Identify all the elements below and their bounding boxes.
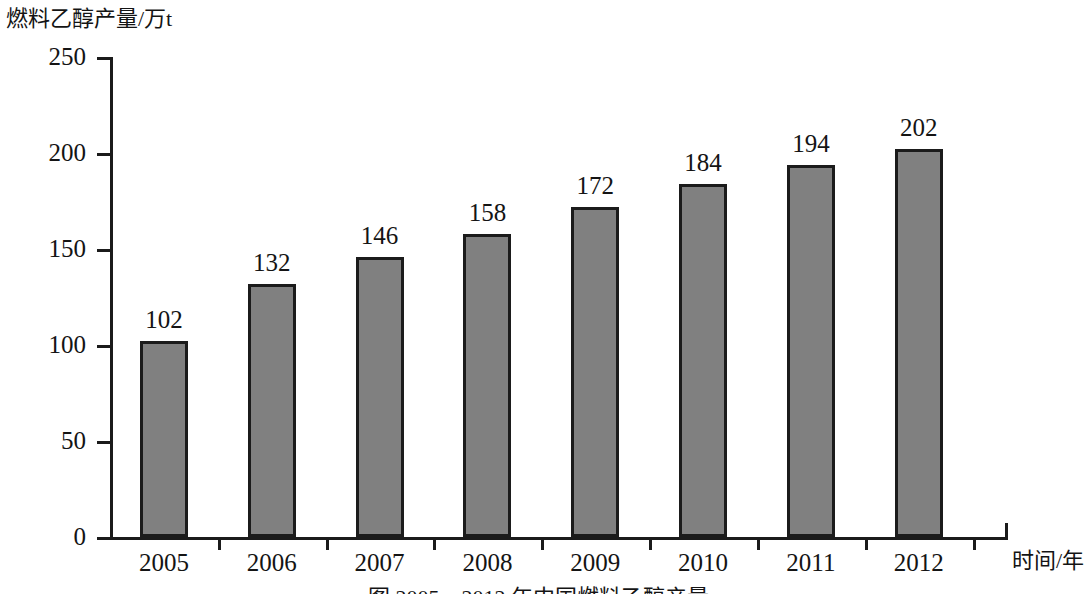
x-tick-label: 2009: [570, 549, 620, 577]
bar-value-label: 132: [253, 250, 291, 275]
y-tick-label: 200: [16, 140, 86, 165]
x-tick-mark: [326, 537, 329, 550]
y-tick-label: 150: [16, 236, 86, 261]
x-tick-label: 2010: [678, 549, 728, 577]
x-axis-line: [110, 537, 1005, 540]
y-tick-mark: [97, 441, 110, 444]
figure-caption: 图 2005—2012 年中国燃料乙醇产量: [0, 585, 1077, 594]
x-tick-mark: [541, 537, 544, 550]
bar-value-label: 194: [792, 131, 830, 156]
y-tick-mark: [97, 345, 110, 348]
y-axis-title: 燃料乙醇产量/万t: [6, 6, 172, 32]
bar-value-label: 202: [900, 115, 938, 140]
bar-value-label: 184: [684, 150, 722, 175]
y-tick-mark: [97, 57, 110, 60]
y-tick-label: 250: [16, 44, 86, 69]
bar-value-label: 102: [145, 307, 183, 332]
bar-value-label: 172: [576, 173, 614, 198]
bar: [787, 165, 835, 537]
x-tick-mark: [433, 537, 436, 550]
x-tick-mark: [865, 537, 868, 550]
x-axis-end-tick: [1005, 523, 1008, 540]
x-tick-label: 2006: [247, 549, 297, 577]
x-tick-label: 2008: [462, 549, 512, 577]
y-tick-mark: [97, 249, 110, 252]
y-tick-label: 50: [16, 428, 86, 453]
x-tick-label: 2011: [786, 549, 835, 577]
x-tick-mark: [649, 537, 652, 550]
bar: [356, 257, 404, 537]
bar: [140, 341, 188, 537]
x-tick-mark: [218, 537, 221, 550]
bar: [463, 234, 511, 537]
x-tick-label: 2012: [894, 549, 944, 577]
x-tick-label: 2005: [139, 549, 189, 577]
bar-value-label: 146: [361, 223, 399, 248]
x-axis-title: 时间/年: [1012, 548, 1084, 574]
y-tick-mark: [97, 537, 110, 540]
bar: [679, 184, 727, 537]
bar: [571, 207, 619, 537]
x-tick-mark: [757, 537, 760, 550]
y-axis-line: [110, 57, 113, 537]
y-tick-mark: [97, 153, 110, 156]
y-tick-label: 0: [16, 524, 86, 549]
x-tick-mark: [973, 537, 976, 550]
plot-area: 050100150200250 102132146158172184194202…: [110, 57, 1005, 537]
y-tick-label: 100: [16, 332, 86, 357]
x-tick-label: 2007: [355, 549, 405, 577]
bar-value-label: 158: [469, 200, 507, 225]
bar: [895, 149, 943, 537]
bar: [248, 284, 296, 537]
